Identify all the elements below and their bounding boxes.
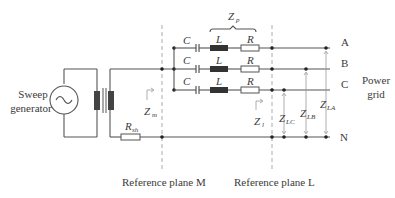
zla-label: Z: [320, 98, 327, 110]
svg-text:m: m: [152, 111, 157, 119]
branch-c: [174, 86, 330, 94]
circuit-diagram: Sweep generator R sh Z m Z p C L R: [0, 0, 395, 198]
sweep-generator: [50, 69, 97, 137]
svg-text:LA: LA: [326, 104, 336, 112]
zm-label: Z: [144, 105, 151, 117]
phase-b-label: B: [341, 57, 348, 69]
svg-text:R: R: [246, 33, 254, 45]
reference-plane-m-label: Reference plane M: [122, 176, 206, 188]
svg-text:R: R: [246, 75, 254, 87]
phase-a-label: A: [341, 36, 349, 48]
svg-text:LB: LB: [306, 113, 316, 121]
shunt-resistor: [121, 134, 140, 140]
neutral-label: N: [340, 131, 348, 143]
power-grid-label-1: Power: [362, 74, 390, 86]
branch-a: [174, 44, 330, 52]
zlc-label: Z: [279, 112, 286, 124]
svg-text:C: C: [183, 34, 191, 46]
svg-text:L: L: [215, 75, 222, 87]
svg-text:p: p: [235, 16, 240, 24]
generator-label-2: generator: [10, 102, 52, 114]
zlb-label: Z: [300, 107, 307, 119]
power-grid-label-2: grid: [367, 88, 385, 100]
svg-text:L: L: [215, 54, 222, 66]
phase-c-label: C: [341, 78, 348, 90]
reference-plane-l-label: Reference plane L: [234, 176, 315, 188]
svg-text:LC: LC: [285, 118, 295, 126]
zp-label: Z: [228, 10, 235, 22]
rsh-label: R: [124, 120, 132, 132]
generator-label-1: Sweep: [18, 88, 48, 100]
transformer-icon: [94, 88, 114, 113]
svg-text:sh: sh: [132, 126, 139, 134]
zl-label: Z: [254, 115, 261, 127]
svg-text:l: l: [262, 121, 264, 129]
svg-text:C: C: [183, 75, 191, 87]
svg-text:L: L: [215, 33, 222, 45]
svg-text:C: C: [183, 54, 191, 66]
svg-text:R: R: [246, 54, 254, 66]
